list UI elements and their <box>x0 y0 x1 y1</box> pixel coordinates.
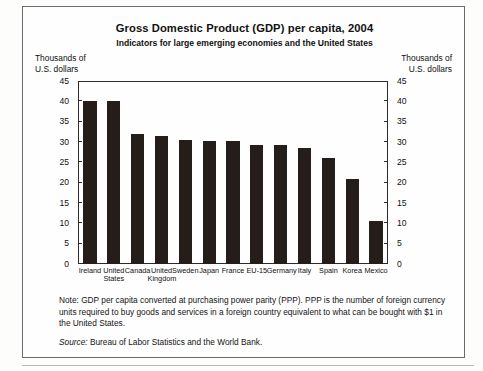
y-axis-left-tick-label: 5 <box>45 239 69 248</box>
y-axis-right-tick-label: 20 <box>397 178 421 187</box>
y-axis-left-tick-label: 35 <box>45 117 69 126</box>
y-axis-left-tick-label: 25 <box>45 158 69 167</box>
y-axis-left-tick-label: 15 <box>45 199 69 208</box>
chart-page: Gross Domestic Product (GDP) per capita,… <box>0 0 483 371</box>
chart-subtitle: Indicators for large emerging economies … <box>23 38 466 48</box>
y-axis-right-units: Thousands of U.S. dollars <box>401 53 452 75</box>
y-axis-right-tick-label: 10 <box>397 219 421 228</box>
bar <box>203 141 216 264</box>
y-axis-right-tick-label: 5 <box>397 239 421 248</box>
chart-source-text: Bureau of Labor Statistics and the World… <box>90 337 262 347</box>
x-axis-tick-label-line: States <box>100 275 128 283</box>
y-axis-right-units-line1: Thousands of <box>401 53 452 64</box>
bar <box>250 145 263 264</box>
y-axis-right-tick-label: 15 <box>397 199 421 208</box>
chart-note: Note: GDP per capita converted at purcha… <box>59 295 452 330</box>
y-axis-right-tick-label: 0 <box>397 260 421 269</box>
y-axis-left-units-line2: U.S. dollars <box>35 64 86 75</box>
bar <box>346 179 359 264</box>
bar <box>226 141 239 264</box>
y-axis-left-tick-label: 10 <box>45 219 69 228</box>
y-axis-left-tick-label: 40 <box>45 97 69 106</box>
bar <box>179 140 192 264</box>
x-axis-tick-label-line: Kingdom <box>148 275 176 283</box>
y-axis-right-tick-label: 25 <box>397 158 421 167</box>
bar <box>107 101 120 264</box>
chart-title: Gross Domestic Product (GDP) per capita,… <box>23 22 466 34</box>
y-axis-left-tick-label: 30 <box>45 138 69 147</box>
y-axis-left-tick-label: 45 <box>45 77 69 86</box>
y-axis-right-tick-label: 45 <box>397 77 421 86</box>
y-axis-right-units-line2: U.S. dollars <box>401 64 452 75</box>
bar <box>155 136 168 264</box>
x-axis-tick-label-line: Mexico <box>362 267 390 275</box>
bar <box>369 221 382 264</box>
bar <box>131 134 144 264</box>
y-axis-right-tick-label: 40 <box>397 97 421 106</box>
page-shadow-line <box>22 365 474 366</box>
y-axis-right-tick-label: 35 <box>397 117 421 126</box>
y-axis-right-tick-label: 30 <box>397 138 421 147</box>
x-axis-tick-label: Mexico <box>362 267 390 275</box>
y-axis-left-units: Thousands of U.S. dollars <box>35 53 86 75</box>
bar <box>83 101 96 264</box>
bar-series: IrelandUnitedStatesCanadaUnitedKingdomSw… <box>78 81 388 264</box>
y-axis-left-tick-label: 20 <box>45 178 69 187</box>
y-axis-left-units-line1: Thousands of <box>35 53 86 64</box>
chart-source-label: Source: <box>59 337 88 347</box>
bar <box>274 145 287 264</box>
chart-source: Source: Bureau of Labor Statistics and t… <box>59 337 452 347</box>
plot-area: 051015202530354045 051015202530354045 Ir… <box>78 81 388 264</box>
bar <box>322 158 335 264</box>
bar <box>298 148 311 264</box>
y-axis-left-tick-label: 0 <box>45 260 69 269</box>
chart-frame: Gross Domestic Product (GDP) per capita,… <box>22 6 465 358</box>
